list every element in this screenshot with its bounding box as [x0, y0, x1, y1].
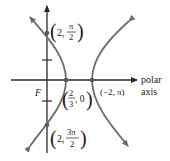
- svg-text:(: (: [50, 20, 57, 43]
- focus-label: F: [34, 87, 42, 98]
- hyperbola-right-branch: [92, 21, 129, 146]
- polar-axis-label-line1: polar: [141, 74, 162, 85]
- svg-text:(: (: [62, 88, 69, 111]
- svg-text:π: π: [69, 21, 74, 31]
- label-2-3pi-over-2: ( 2, 3π 2 ): [50, 127, 87, 150]
- hyperbola-diagram: ( 2, π 2 ) ( 2 3 , 0 ) (−2, π) ( 2, 3π 2…: [0, 0, 170, 161]
- svg-text:2: 2: [69, 88, 73, 98]
- svg-text:3: 3: [69, 99, 73, 109]
- svg-text:, 0: , 0: [75, 94, 85, 104]
- svg-text:): ): [86, 88, 93, 111]
- svg-text:2,: 2,: [57, 27, 65, 38]
- point-neg2-pi: [90, 78, 95, 83]
- label-2-thirds-0: ( 2 3 , 0 ): [62, 88, 93, 111]
- svg-text:2,: 2,: [57, 133, 65, 144]
- polar-axis-label-line2: axis: [141, 86, 157, 97]
- point-2-pi-over-2: [45, 31, 50, 36]
- svg-text:): ): [77, 20, 84, 43]
- svg-text:(: (: [50, 127, 57, 150]
- svg-text:3π: 3π: [67, 127, 76, 137]
- label-2-pi-over-2: ( 2, π 2 ): [50, 20, 84, 43]
- point-2-thirds-0: [64, 78, 69, 83]
- svg-text:2: 2: [69, 32, 73, 42]
- svg-text:2: 2: [70, 139, 74, 149]
- svg-text:): ): [80, 127, 87, 150]
- label-neg2-pi: (−2, π): [100, 87, 125, 97]
- point-2-3pi-over-2: [45, 123, 50, 128]
